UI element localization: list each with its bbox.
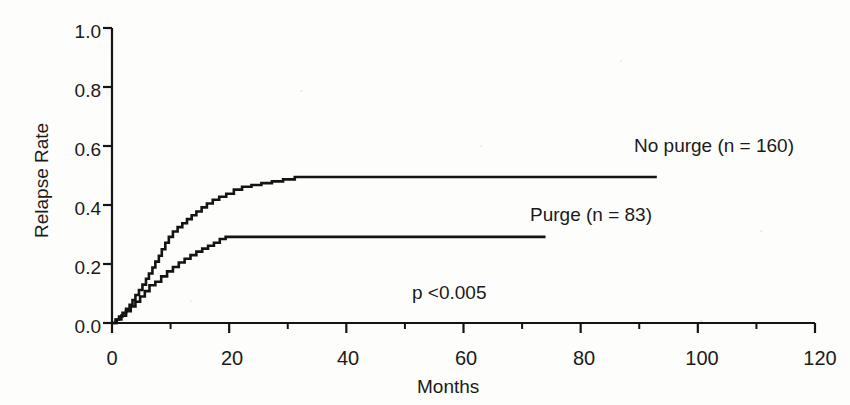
- x-axis-title: Months: [417, 377, 479, 396]
- series-curve-purge: [112, 237, 546, 323]
- xtick-label-20: 20: [212, 348, 252, 368]
- scan-speck: [300, 90, 303, 92]
- scan-speck: [700, 320, 703, 322]
- ytick-label-0_4: 0.4: [55, 199, 101, 218]
- xtick-label-80: 80: [564, 348, 604, 368]
- y-axis-title: Relapse Rate: [32, 123, 51, 238]
- xtick-label-100: 100: [677, 348, 727, 368]
- annotation-pvalue: p <0.005: [412, 283, 487, 302]
- ytick-label-1_0: 1.0: [55, 22, 101, 41]
- figure-container: 1.0 0.8 0.6 0.4 0.2 0.0 0 20 40 60 80 10…: [0, 0, 850, 405]
- ytick-label-0_0: 0.0: [55, 317, 101, 336]
- annotation-purge: Purge (n = 83): [530, 205, 652, 224]
- scan-speck: [620, 60, 622, 62]
- series-curve-no-purge: [112, 177, 657, 323]
- scan-speck: [190, 300, 192, 302]
- scan-speck: [480, 145, 482, 147]
- xtick-label-120: 120: [795, 348, 845, 368]
- xtick-label-40: 40: [328, 348, 368, 368]
- ytick-label-0_2: 0.2: [55, 258, 101, 277]
- xtick-label-0: 0: [92, 348, 132, 368]
- scan-speck: [760, 230, 763, 232]
- xtick-label-60: 60: [446, 348, 486, 368]
- ytick-label-0_8: 0.8: [55, 81, 101, 100]
- series-group: [112, 177, 657, 323]
- kaplan-meier-plot: [0, 0, 850, 405]
- ytick-label-0_6: 0.6: [55, 140, 101, 159]
- annotation-no-purge: No purge (n = 160): [634, 136, 794, 155]
